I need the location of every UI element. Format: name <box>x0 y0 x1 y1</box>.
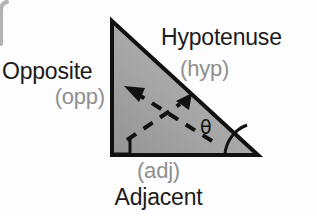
label-adjacent: Adjacent <box>0 186 317 209</box>
label-hypotenuse-abbreviation: (hyp) <box>180 58 229 80</box>
label-opposite-abbreviation: (opp) <box>0 86 105 108</box>
label-opposite: Opposite <box>2 60 92 83</box>
label-hypotenuse: Hypotenuse <box>161 26 282 49</box>
page-edge-artifact <box>1 2 7 44</box>
diagram-canvas: Opposite (opp) Hypotenuse (hyp) (adj) Ad… <box>0 0 317 216</box>
label-adjacent-abbreviation: (adj) <box>0 160 317 182</box>
theta-angle-label: θ <box>200 118 211 137</box>
